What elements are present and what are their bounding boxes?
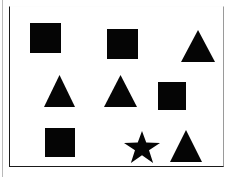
shape-square-1 [30, 23, 61, 53]
left-edge-rule [2, 0, 3, 177]
shape-triangle-4 [170, 130, 202, 162]
shape-triangle-2 [44, 75, 75, 107]
shape-star-1 [124, 131, 160, 163]
shape-square-3 [158, 82, 186, 110]
shape-triangle-3 [104, 75, 137, 107]
diagram-frame [9, 6, 224, 167]
shape-triangle-1 [181, 30, 215, 62]
shape-square-2 [107, 29, 138, 59]
shape-diagram-canvas [0, 0, 235, 177]
shape-square-4 [45, 128, 75, 157]
